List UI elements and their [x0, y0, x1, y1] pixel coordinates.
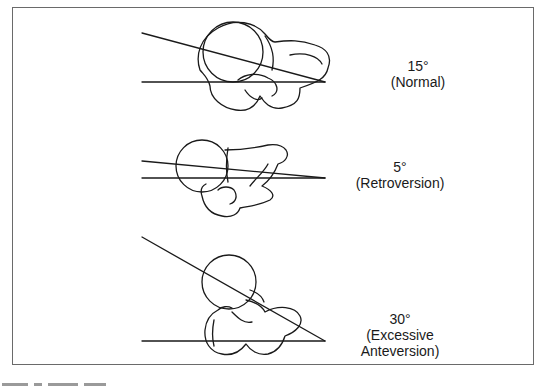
description-anteversion-line2: Anteversion) — [335, 343, 465, 359]
femur-drawing-anteversion — [202, 255, 301, 355]
clipped-caption — [2, 383, 152, 388]
angle-retroversion: 5° — [335, 159, 465, 175]
label-retroversion: 5° (Retroversion) — [335, 159, 465, 191]
label-normal: 15° (Normal) — [378, 58, 458, 90]
description-anteversion-line1: (Excessive — [335, 327, 465, 343]
axis-lines-retroversion — [142, 161, 325, 178]
description-normal: (Normal) — [378, 74, 458, 90]
angle-normal: 15° — [378, 58, 458, 74]
description-retroversion: (Retroversion) — [335, 175, 465, 191]
axis-lines-normal — [142, 33, 325, 82]
angle-anteversion: 30° — [335, 311, 465, 327]
label-excessive-anteversion: 30° (Excessive Anteversion) — [335, 311, 465, 359]
axis-lines-anteversion — [142, 237, 325, 341]
